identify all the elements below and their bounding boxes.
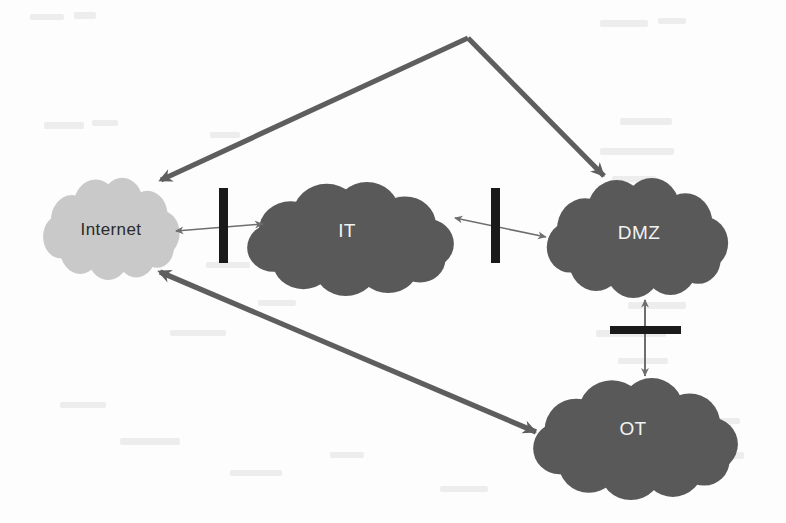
diagram-canvas [0, 0, 786, 523]
connector-internet-ot-bypass [160, 272, 536, 432]
firewall-bar-dmz-ot [610, 326, 681, 334]
cloud-it [247, 182, 454, 296]
network-zone-diagram: Internet IT DMZ OT [0, 0, 786, 523]
cloud-dmz [547, 178, 728, 298]
cloud-internet [43, 178, 180, 280]
cloud-ot [533, 378, 738, 500]
firewall-bar-internet-it [219, 188, 228, 263]
connector-it-dmz [455, 218, 546, 237]
firewall-bar-it-dmz [491, 188, 500, 263]
connector-internet-dmz-bypass [161, 38, 604, 180]
